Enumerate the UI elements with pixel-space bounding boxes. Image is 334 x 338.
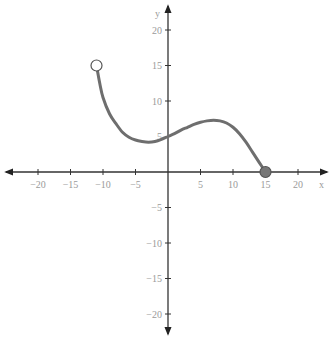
x-tick-label: −5	[130, 179, 141, 190]
x-tick-label: −20	[30, 179, 46, 190]
x-tick-label: 5	[198, 179, 203, 190]
x-tick-label: −15	[63, 179, 79, 190]
y-tick-label: −15	[146, 273, 162, 284]
closed-endpoint	[260, 167, 271, 178]
x-tick-label: 10	[228, 179, 238, 190]
function-curve	[97, 66, 266, 173]
x-axis-label: x	[319, 179, 324, 190]
y-tick-label: 20	[152, 25, 162, 36]
x-tick-label: −10	[95, 179, 111, 190]
y-axis-label: y	[155, 8, 160, 19]
endpoints	[91, 60, 271, 178]
y-tick-label: −20	[146, 309, 162, 320]
function-graph: −20−15−10−55101520 2015105−5−10−15−20 x …	[0, 0, 334, 338]
y-tick-label: 15	[152, 60, 162, 71]
open-endpoint	[91, 60, 102, 71]
x-tick-label: 15	[261, 179, 271, 190]
x-tick-label: 20	[293, 179, 303, 190]
y-tick-label: 10	[152, 96, 162, 107]
y-tick-label: −10	[146, 238, 162, 249]
axes	[6, 6, 327, 334]
y-tick-label: −5	[151, 202, 162, 213]
